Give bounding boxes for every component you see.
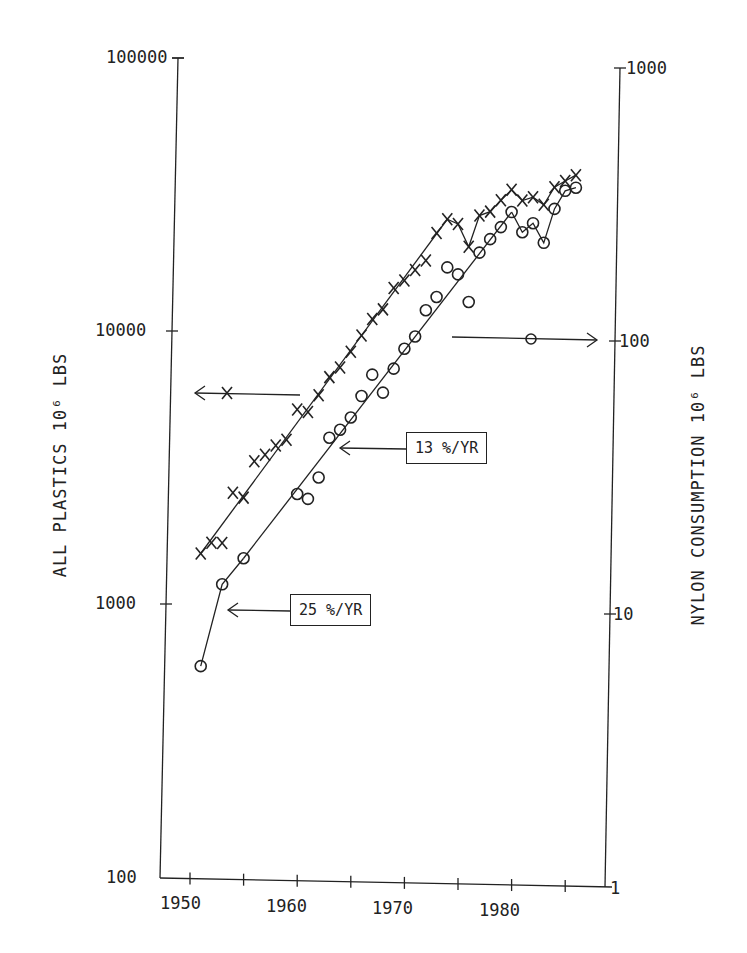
y-axis-left-title: ALL PLASTICS 10⁶ LBS — [50, 335, 70, 595]
ytick-right-1000: 1000 — [626, 58, 667, 78]
xtick-1970: 1970 — [372, 898, 413, 918]
xtick-1980: 1980 — [479, 900, 520, 920]
ytick-left-10000: 10000 — [95, 320, 146, 340]
y-axis-right-title: NYLON CONSUMPTION 10⁶ LBS — [688, 335, 708, 635]
ytick-left-1000: 1000 — [95, 593, 136, 613]
right-y-axis — [605, 68, 620, 887]
xtick-1960: 1960 — [266, 896, 307, 916]
ytick-right-10: 10 — [613, 604, 633, 624]
xtick-1950: 1950 — [160, 893, 201, 913]
ytick-left-100: 100 — [106, 867, 137, 887]
annotation-arrows — [195, 333, 597, 617]
ytick-left-100000: 100000 — [106, 47, 167, 67]
ytick-right-1: 1 — [610, 878, 620, 898]
ytick-right-100: 100 — [619, 331, 650, 351]
x-axis — [160, 878, 612, 887]
left-y-axis — [160, 58, 178, 878]
axes — [160, 58, 626, 892]
chart-canvas — [0, 0, 747, 953]
data-markers — [195, 169, 581, 671]
growth-rate-box-13: 13 %/YR — [406, 432, 487, 464]
trend-lines — [201, 175, 576, 666]
growth-rate-box-25: 25 %/YR — [290, 594, 371, 626]
